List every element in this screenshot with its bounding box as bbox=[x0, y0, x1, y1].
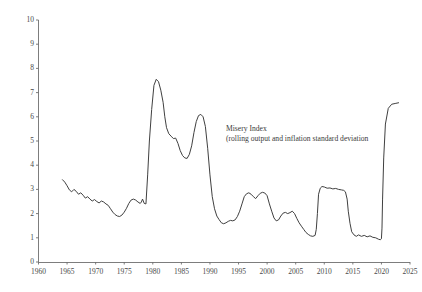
data-series-group bbox=[63, 79, 399, 239]
y-tick-label: 4 bbox=[10, 161, 34, 169]
y-tick-label: 5 bbox=[10, 137, 34, 145]
x-tick-label: 1970 bbox=[82, 268, 110, 276]
y-tick-label: 0 bbox=[10, 258, 34, 266]
y-tick-label: 1 bbox=[10, 234, 34, 242]
y-tick-label: 2 bbox=[10, 210, 34, 218]
y-tick-label: 9 bbox=[10, 40, 34, 48]
x-tick-label: 1990 bbox=[196, 268, 224, 276]
annotation-line-1: Misery Index bbox=[226, 124, 368, 134]
y-tick-label: 8 bbox=[10, 64, 34, 72]
y-tick-label: 3 bbox=[10, 185, 34, 193]
x-tick-label: 2010 bbox=[310, 268, 338, 276]
x-tick-label: 1980 bbox=[139, 268, 167, 276]
series-line bbox=[63, 79, 399, 239]
x-tick-label: 2005 bbox=[282, 268, 310, 276]
chart-canvas bbox=[0, 0, 422, 292]
x-tick-label: 2000 bbox=[253, 268, 281, 276]
y-tick-label: 6 bbox=[10, 113, 34, 121]
misery-index-chart: 0123456789101960196519701975198019851990… bbox=[0, 0, 422, 292]
x-tick-label: 1995 bbox=[225, 268, 253, 276]
annotation-line-2: (rolling output and inflation standard d… bbox=[226, 134, 368, 144]
y-tick-label: 7 bbox=[10, 89, 34, 97]
x-tick-label: 2015 bbox=[339, 268, 367, 276]
y-tick-label: 10 bbox=[10, 16, 34, 24]
x-tick-label: 1965 bbox=[53, 268, 81, 276]
x-tick-label: 1975 bbox=[110, 268, 138, 276]
x-tick-label: 1960 bbox=[25, 268, 53, 276]
x-tick-label: 2020 bbox=[367, 268, 395, 276]
series-annotation: Misery Index (rolling output and inflati… bbox=[226, 124, 368, 143]
x-tick-label: 1985 bbox=[167, 268, 195, 276]
x-tick-label: 2025 bbox=[396, 268, 422, 276]
